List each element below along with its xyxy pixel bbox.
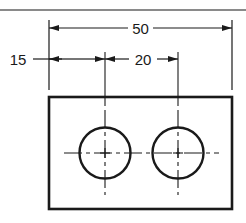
drawing-canvas: 50 15 20 — [0, 0, 246, 223]
technical-drawing: 50 15 20 — [0, 0, 246, 223]
dimension-label-20: 20 — [135, 51, 152, 68]
vertical-centerlines — [105, 52, 178, 195]
dimension-label-15: 15 — [10, 51, 27, 68]
dimension-label-50: 50 — [132, 20, 149, 37]
